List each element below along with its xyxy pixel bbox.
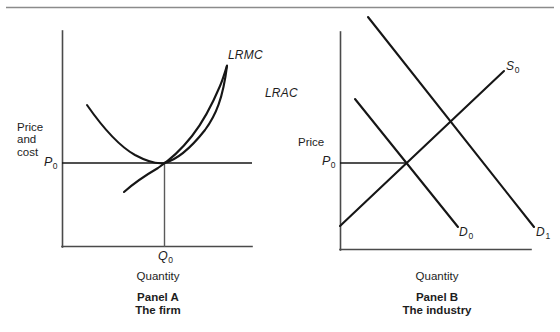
panel-a-caption: Panel A The firm [135, 291, 180, 316]
panel-b-supply-label: S0 [506, 60, 519, 73]
panel-a-price-label-subscript: 0 [53, 161, 58, 171]
panel-a-lrmc-label: LRMC [228, 49, 263, 61]
panel-a-y-axis-label-line2: and [17, 133, 43, 145]
panel-b-price-label-subscript: 0 [331, 160, 336, 170]
panel-a-plot [62, 31, 252, 247]
panel-b-demand-new-label: D1 [536, 226, 550, 239]
panel-b-caption-line1: Panel B [402, 291, 471, 304]
panel-b-caption-line2: The industry [402, 304, 471, 317]
panel-a-price-label-text: P [44, 155, 52, 169]
panel-b-supply-label-subscript: 0 [515, 65, 520, 75]
panel-b-demand-new-label-subscript: 1 [545, 231, 550, 241]
panel-b-demand-initial-label: D0 [459, 226, 473, 239]
panel-b-plot [340, 17, 534, 250]
panel-a-lrac-label: LRAC [265, 87, 298, 99]
panel-a-lrmc-label-text: LRMC [228, 48, 263, 62]
panel-a-lrmc-curve [124, 66, 227, 193]
panel-a-y-axis-label: Price and cost [17, 121, 43, 158]
panel-b-price-label: P0 [322, 155, 335, 168]
panel-b-demand-initial-label-subscript: 0 [468, 231, 473, 241]
economics-figure: Price and cost P0 Q0 LRMC LRAC Quantity … [0, 0, 560, 332]
panel-a-quantity-marker-label: Q0 [158, 250, 172, 263]
panel-b-x-axis-label: Quantity [416, 270, 459, 282]
panel-a-x-axis-label: Quantity [137, 270, 180, 282]
panel-a-caption-line2: The firm [135, 304, 180, 317]
panel-a-quantity-marker-text: Q [158, 249, 168, 263]
panel-b-demand-curve-d1 [368, 17, 534, 227]
panel-b-y-axis-label: Price [298, 136, 324, 148]
panel-a-quantity-marker-subscript: 0 [168, 255, 173, 265]
panel-b-demand-initial-label-text: D [459, 225, 468, 239]
panel-b-price-label-text: P [322, 154, 330, 168]
panel-a-caption-line1: Panel A [135, 291, 180, 304]
panel-b-caption: Panel B The industry [402, 291, 471, 316]
figure-canvas [0, 0, 560, 332]
panel-a-price-label: P0 [44, 156, 57, 169]
panel-b-supply-curve-s0 [340, 71, 504, 226]
panel-b-demand-new-label-text: D [536, 225, 545, 239]
panel-a-y-axis-label-line1: Price [17, 121, 43, 133]
panel-b-supply-label-text: S [506, 59, 514, 73]
panel-a-y-axis-label-line3: cost [17, 146, 43, 158]
panel-a-lrac-label-text: LRAC [265, 86, 298, 100]
